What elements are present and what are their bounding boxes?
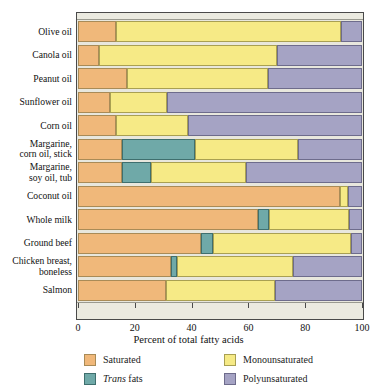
- x-tick-label: 0: [63, 322, 93, 333]
- x-tick-label: 80: [290, 322, 320, 333]
- legend-row: Trans fatsPolyunsaturated: [84, 369, 364, 388]
- legend-swatch-mono: [224, 354, 236, 366]
- category-label: Ground beef: [0, 238, 72, 249]
- legend-item-mono: Monounsaturated: [224, 354, 364, 366]
- legend-swatch-sat: [84, 354, 96, 366]
- x-tick: [192, 303, 193, 308]
- legend-item-sat: Saturated: [84, 354, 224, 366]
- x-tick: [78, 303, 79, 308]
- x-tick: [248, 303, 249, 308]
- legend-label: Polyunsaturated: [243, 373, 307, 384]
- category-label: Margarine,soy oil, tub: [0, 162, 72, 183]
- x-tick-label: 100: [347, 322, 377, 333]
- category-label: Corn oil: [0, 121, 72, 132]
- legend-row: SaturatedMonounsaturated: [84, 350, 364, 369]
- category-label: Canola oil: [0, 50, 72, 61]
- category-label: Salmon: [0, 285, 72, 296]
- category-label: Olive oil: [0, 27, 72, 38]
- fatty-acid-composition-chart: Olive oilCanola oilPeanut oilSunflower o…: [0, 0, 377, 388]
- category-label: Whole milk: [0, 215, 72, 226]
- legend-label: Monounsaturated: [243, 354, 313, 365]
- x-tick: [362, 303, 363, 308]
- x-tick-label: 60: [233, 322, 263, 333]
- legend-swatch-poly: [224, 373, 236, 385]
- category-label: Chicken breast,boneless: [0, 256, 72, 277]
- x-tick: [135, 303, 136, 308]
- legend-swatch-tran: [84, 373, 96, 385]
- x-axis-title: Percent of total fatty acids: [0, 334, 377, 345]
- category-label: Margarine,corn oil, stick: [0, 139, 72, 160]
- x-tick: [305, 303, 306, 308]
- legend-label: Saturated: [103, 354, 141, 365]
- legend-item-poly: Polyunsaturated: [224, 373, 364, 385]
- category-label: Peanut oil: [0, 74, 72, 85]
- category-label: Coconut oil: [0, 191, 72, 202]
- legend-item-tran: Trans fats: [84, 373, 224, 385]
- legend-label: Trans fats: [103, 373, 143, 384]
- x-tick-label: 40: [177, 322, 207, 333]
- category-label: Sunflower oil: [0, 97, 72, 108]
- chart-legend: SaturatedMonounsaturatedTrans fatsPolyun…: [84, 350, 364, 388]
- x-tick-label: 20: [120, 322, 150, 333]
